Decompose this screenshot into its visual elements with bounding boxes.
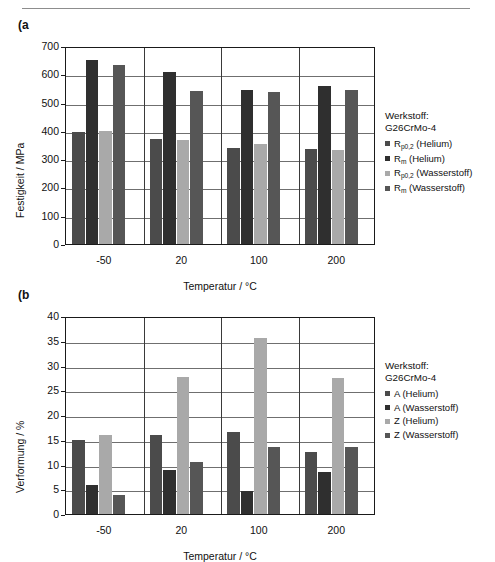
bar bbox=[86, 485, 99, 514]
legend-entry: Z (Helium) bbox=[385, 415, 495, 427]
bar bbox=[177, 377, 190, 514]
bar bbox=[318, 86, 331, 244]
bar bbox=[163, 470, 176, 514]
legend-swatch-icon bbox=[385, 433, 390, 438]
bar bbox=[190, 91, 203, 244]
x-tick-label: -50 bbox=[74, 524, 134, 536]
legend-entry: Rm (Wasserstoff) bbox=[385, 182, 495, 195]
gridline-vertical bbox=[221, 318, 222, 514]
y-tick-mark bbox=[61, 132, 65, 133]
bar bbox=[268, 447, 281, 514]
bar bbox=[241, 90, 254, 244]
y-tick-label: 40 bbox=[13, 310, 59, 322]
x-tick-label: 200 bbox=[306, 524, 366, 536]
y-tick-mark bbox=[61, 245, 65, 246]
gridline-vertical bbox=[299, 318, 300, 514]
y-tick-mark bbox=[61, 217, 65, 218]
legend-items-b: A (Helium)A (Wasserstoff)Z (Helium)Z (Wa… bbox=[385, 388, 495, 442]
x-tick-label: 20 bbox=[151, 524, 211, 536]
bar bbox=[305, 149, 318, 244]
legend-swatch-icon bbox=[385, 391, 390, 396]
bar bbox=[177, 140, 190, 244]
y-axis-title-b: Verformung / % bbox=[14, 421, 26, 493]
legend-title-a: Werkstoff: G26CrMo-4 bbox=[385, 110, 495, 134]
plot-frame-a bbox=[65, 47, 375, 245]
x-tick-label: -50 bbox=[74, 254, 134, 266]
y-tick-label: 700 bbox=[13, 40, 59, 52]
y-tick-mark bbox=[61, 104, 65, 105]
legend-label: A (Helium) bbox=[394, 388, 438, 400]
figure-b: (b 0510152025303540 -5020100200 Temperat… bbox=[0, 288, 495, 553]
legend-entry: Rm (Helium) bbox=[385, 153, 495, 166]
bar bbox=[150, 435, 163, 514]
y-tick-mark bbox=[61, 342, 65, 343]
legend-label: Rm (Helium) bbox=[394, 153, 445, 166]
gridline-horizontal bbox=[66, 417, 374, 418]
y-tick-label: 600 bbox=[13, 68, 59, 80]
bar bbox=[254, 338, 267, 514]
bar bbox=[254, 144, 267, 244]
gridline-vertical bbox=[221, 48, 222, 244]
gridline-vertical bbox=[144, 318, 145, 514]
legend-swatch-icon bbox=[385, 141, 390, 146]
y-tick-mark bbox=[61, 75, 65, 76]
y-tick-label: 35 bbox=[13, 335, 59, 347]
plot-frame-b bbox=[65, 317, 375, 515]
legend-title-b: Werkstoff: G26CrMo-4 bbox=[385, 360, 495, 384]
bar bbox=[227, 432, 240, 514]
y-tick-label: 0 bbox=[13, 508, 59, 520]
bar bbox=[86, 60, 99, 244]
legend-a: Werkstoff: G26CrMo-4 Rp0,2 (Helium)Rm (H… bbox=[385, 110, 495, 197]
legend-label: Rp0,2 (Wasserstoff) bbox=[394, 167, 472, 180]
legend-entry: Z (Wasserstoff) bbox=[385, 429, 495, 441]
bar bbox=[241, 491, 254, 514]
bar bbox=[227, 148, 240, 244]
gridline-horizontal bbox=[66, 392, 374, 393]
y-tick-mark bbox=[61, 466, 65, 467]
gridline-vertical bbox=[144, 48, 145, 244]
x-tick-label: 20 bbox=[151, 254, 211, 266]
legend-entry: A (Wasserstoff) bbox=[385, 402, 495, 414]
y-tick-mark bbox=[61, 416, 65, 417]
legend-swatch-icon bbox=[385, 405, 390, 410]
legend-entry: Rp0,2 (Helium) bbox=[385, 138, 495, 151]
legend-label: A (Wasserstoff) bbox=[394, 402, 458, 414]
x-axis-title-b: Temperatur / °C bbox=[65, 550, 375, 562]
bar bbox=[305, 452, 318, 514]
bar bbox=[318, 472, 331, 514]
y-tick-mark bbox=[61, 515, 65, 516]
bar bbox=[345, 447, 358, 514]
legend-swatch-icon bbox=[385, 186, 390, 191]
y-tick-mark bbox=[61, 490, 65, 491]
bar bbox=[72, 440, 85, 514]
x-tick-label: 100 bbox=[229, 524, 289, 536]
y-tick-label: 0 bbox=[13, 238, 59, 250]
gridline-vertical bbox=[299, 48, 300, 244]
bar bbox=[113, 495, 126, 514]
y-tick-mark bbox=[61, 391, 65, 392]
legend-entry: A (Helium) bbox=[385, 388, 495, 400]
bar bbox=[99, 131, 112, 244]
y-tick-mark bbox=[61, 367, 65, 368]
gridline-horizontal bbox=[66, 343, 374, 344]
bar bbox=[190, 462, 203, 514]
bar bbox=[113, 65, 126, 244]
legend-label: Rp0,2 (Helium) bbox=[394, 138, 452, 151]
header-divider bbox=[22, 8, 470, 9]
bar bbox=[72, 132, 85, 244]
y-tick-mark bbox=[61, 317, 65, 318]
y-tick-label: 20 bbox=[13, 409, 59, 421]
y-tick-mark bbox=[61, 441, 65, 442]
y-tick-mark bbox=[61, 47, 65, 48]
x-tick-label: 100 bbox=[229, 254, 289, 266]
bar bbox=[332, 378, 345, 514]
bar bbox=[268, 92, 281, 244]
bar bbox=[163, 72, 176, 244]
y-tick-label: 30 bbox=[13, 360, 59, 372]
y-axis-title-a: Festigkeit / MPa bbox=[14, 143, 26, 218]
gridline-horizontal bbox=[66, 368, 374, 369]
legend-b: Werkstoff: G26CrMo-4 A (Helium)A (Wasser… bbox=[385, 360, 495, 443]
bar bbox=[345, 90, 358, 244]
y-tick-label: 500 bbox=[13, 97, 59, 109]
